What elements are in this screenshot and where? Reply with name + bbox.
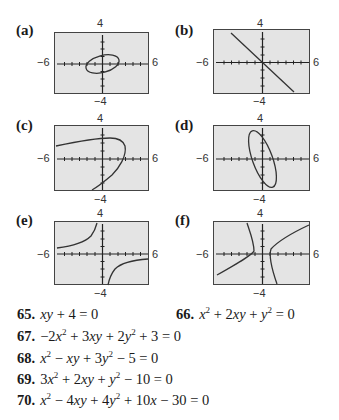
exercise-67: 67.−2x2 + 3xy + 2y2 + 3 = 0 xyxy=(17,328,181,345)
ytick-max-a: 4 xyxy=(97,17,103,29)
ytick-max-c: 4 xyxy=(97,112,103,124)
xtick-min-f: −6 xyxy=(196,248,209,260)
plot-f xyxy=(213,221,310,285)
xtick-max-c: 6 xyxy=(152,152,158,164)
panel-label-c: (c) xyxy=(16,117,33,134)
exercise-number: 69. xyxy=(17,371,35,387)
xtick-min-e: −6 xyxy=(37,248,50,260)
xtick-min-b: −6 xyxy=(196,56,209,68)
xtick-min-c: −6 xyxy=(37,152,50,164)
plot-a xyxy=(54,32,149,94)
graph-f xyxy=(214,222,311,286)
plot-e xyxy=(54,221,149,285)
panel-label-f: (f) xyxy=(175,212,190,229)
ytick-min-d: −4 xyxy=(253,193,266,205)
panel-label-e: (e) xyxy=(16,212,33,229)
xtick-min-d: −6 xyxy=(196,152,209,164)
exercise-69: 69.3x2 + 2xy + y2 − 10 = 0 xyxy=(17,371,173,388)
exercise-number: 68. xyxy=(17,350,35,366)
panel-label-b: (b) xyxy=(175,22,193,39)
exercise-70: 70.x2 − 4xy + 4y2 + 10x − 30 = 0 xyxy=(17,392,209,409)
ytick-min-c: −4 xyxy=(94,193,107,205)
ytick-min-a: −4 xyxy=(94,95,107,107)
graph-b xyxy=(214,30,311,95)
ytick-min-e: −4 xyxy=(94,287,107,299)
exercise-number: 70. xyxy=(17,392,35,408)
graph-d xyxy=(214,126,311,192)
ytick-max-e: 4 xyxy=(97,207,103,219)
plot-b xyxy=(213,29,310,94)
xtick-max-f: 6 xyxy=(313,248,319,260)
exercise-68: 68.x2 − xy + 3y2 − 5 = 0 xyxy=(17,350,158,367)
xtick-min-a: −6 xyxy=(37,56,50,68)
xtick-max-b: 6 xyxy=(313,56,319,68)
xtick-max-d: 6 xyxy=(313,152,319,164)
ytick-min-b: −4 xyxy=(253,95,266,107)
ytick-max-f: 4 xyxy=(257,207,263,219)
graph-c xyxy=(55,126,150,192)
plot-d xyxy=(213,125,310,191)
panel-label-a: (a) xyxy=(16,22,34,39)
plot-c xyxy=(54,125,149,191)
graph-e xyxy=(55,222,150,286)
ytick-max-d: 4 xyxy=(257,112,263,124)
xtick-max-a: 6 xyxy=(152,56,158,68)
panel-label-d: (d) xyxy=(175,117,193,134)
exercise-66: 66.x2 + 2xy + y2 = 0 xyxy=(176,306,295,323)
xtick-max-e: 6 xyxy=(152,248,158,260)
exercise-number: 66. xyxy=(176,306,194,322)
graph-a xyxy=(55,33,150,95)
exercise-number: 67. xyxy=(17,328,35,344)
exercise-number: 65. xyxy=(17,306,35,322)
ytick-max-b: 4 xyxy=(257,17,263,29)
ytick-min-f: −4 xyxy=(253,287,266,299)
exercise-65: 65.xy + 4 = 0 xyxy=(17,306,98,323)
